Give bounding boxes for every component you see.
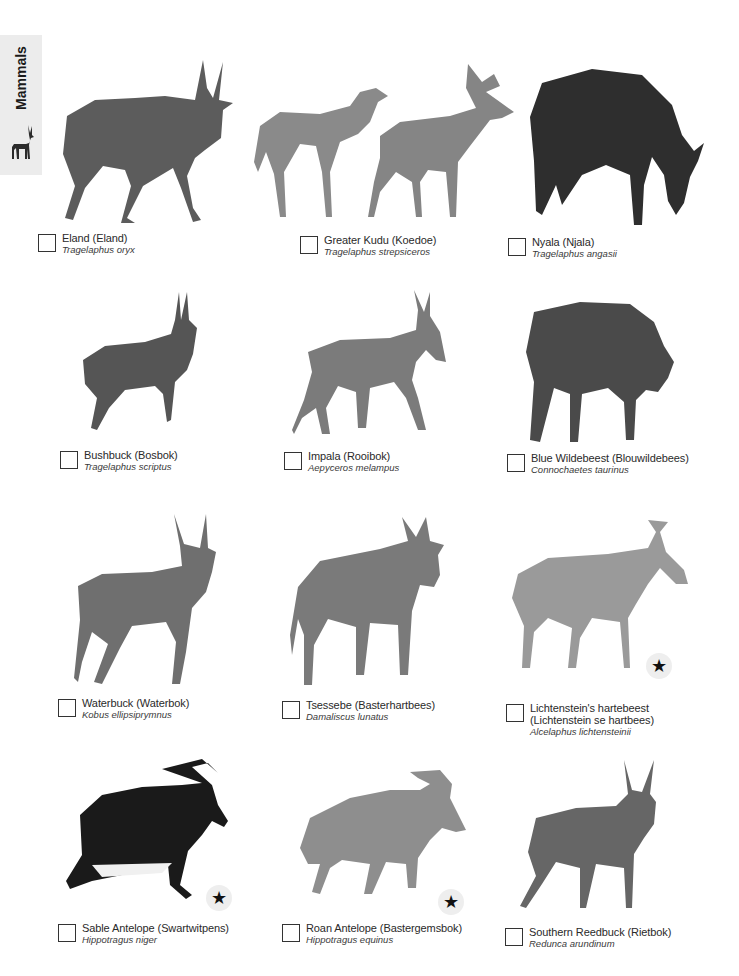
- section-label: Mammals: [8, 43, 34, 113]
- common-name: Impala (Rooibok): [308, 450, 399, 462]
- scientific-name: Tragelaphus oryx: [62, 244, 135, 256]
- species-entry-lichtensteins-hartebeest: Lichtenstein's hartebeest(Lichtenstein s…: [506, 702, 654, 738]
- scientific-name: Tragelaphus scriptus: [84, 461, 178, 473]
- scientific-name: Kobus ellipsiprymnus: [82, 709, 189, 721]
- common-name: Lichtenstein's hartebeest: [530, 702, 654, 714]
- greater-kudu-photo: [250, 62, 520, 222]
- scientific-name: Tragelaphus strepsiceros: [324, 246, 436, 258]
- section-tab-mammals: Mammals: [0, 35, 42, 175]
- scientific-name: Hippotragus equinus: [306, 934, 462, 946]
- common-name: Bushbuck (Bosbok): [84, 449, 178, 461]
- scientific-name: Aepyceros melampus: [308, 462, 399, 474]
- tick-checkbox[interactable]: [507, 454, 525, 472]
- common-name: Eland (Eland): [62, 232, 135, 244]
- species-entry-southern-reedbuck: Southern Reedbuck (Rietbok)Redunca arund…: [505, 926, 671, 950]
- tick-checkbox[interactable]: [282, 924, 300, 942]
- species-entry-eland: Eland (Eland)Tragelaphus oryx: [38, 232, 135, 256]
- species-entry-roan-antelope: Roan Antelope (Bastergemsbok)Hippotragus…: [282, 922, 462, 946]
- species-entry-blue-wildebeest: Blue Wildebeest (Blouwildebees)Connochae…: [507, 452, 689, 476]
- tick-checkbox[interactable]: [282, 701, 300, 719]
- impala-photo: [290, 288, 450, 438]
- tick-checkbox[interactable]: [60, 451, 78, 469]
- tick-checkbox[interactable]: [300, 236, 318, 254]
- scientific-name: Damaliscus lunatus: [306, 711, 435, 723]
- scientific-name: Hippotragus niger: [82, 934, 229, 946]
- southern-reedbuck-photo: [516, 758, 666, 918]
- scientific-name: Connochaetes taurinus: [531, 464, 689, 476]
- species-entry-waterbuck: Waterbuck (Waterbok)Kobus ellipsiprymnus: [58, 697, 189, 721]
- species-entry-sable-antelope: Sable Antelope (Swartwitpens)Hippotragus…: [58, 922, 229, 946]
- species-entry-tsessebe: Tsessebe (Basterhartbees)Damaliscus luna…: [282, 699, 435, 723]
- scientific-name: Tragelaphus angasii: [532, 248, 617, 260]
- common-name: Southern Reedbuck (Rietbok): [529, 926, 671, 938]
- species-entry-greater-kudu: Greater Kudu (Koedoe)Tragelaphus strepsi…: [300, 234, 436, 258]
- waterbuck-photo: [72, 512, 222, 687]
- bushbuck-photo: [75, 290, 205, 435]
- common-name: Roan Antelope (Bastergemsbok): [306, 922, 462, 934]
- tick-checkbox[interactable]: [284, 452, 302, 470]
- species-entry-nyala: Nyala (Njala)Tragelaphus angasii: [508, 236, 617, 260]
- common-name: Greater Kudu (Koedoe): [324, 234, 436, 246]
- protected-star-badge: ★: [646, 653, 672, 679]
- common-name: Sable Antelope (Swartwitpens): [82, 922, 229, 934]
- common-name-afrikaans: (Lichtenstein se hartbees): [530, 714, 654, 726]
- tick-checkbox[interactable]: [58, 699, 76, 717]
- roan-antelope-photo: [290, 768, 470, 898]
- antelope-silhouette-icon: [8, 123, 36, 163]
- species-entry-bushbuck: Bushbuck (Bosbok)Tragelaphus scriptus: [60, 449, 178, 473]
- tick-checkbox[interactable]: [38, 234, 56, 252]
- scientific-name: Redunca arundinum: [529, 938, 671, 950]
- tsessebe-photo: [290, 515, 450, 690]
- tick-checkbox[interactable]: [58, 924, 76, 942]
- common-name: Tsessebe (Basterhartbees): [306, 699, 435, 711]
- sable-antelope-photo: [62, 755, 237, 905]
- tick-checkbox[interactable]: [508, 238, 526, 256]
- protected-star-badge: ★: [438, 889, 464, 915]
- eland-photo: [55, 58, 235, 226]
- species-entry-impala: Impala (Rooibok)Aepyceros melampus: [284, 450, 399, 474]
- tick-checkbox[interactable]: [506, 704, 524, 722]
- protected-star-badge: ★: [206, 885, 232, 911]
- common-name: Nyala (Njala): [532, 236, 617, 248]
- tick-checkbox[interactable]: [505, 928, 523, 946]
- blue-wildebeest-photo: [520, 282, 680, 447]
- scientific-name: Alcelaphus lichtensteinii: [530, 726, 654, 738]
- common-name: Blue Wildebeest (Blouwildebees): [531, 452, 689, 464]
- common-name: Waterbuck (Waterbok): [82, 697, 189, 709]
- nyala-photo: [512, 65, 712, 230]
